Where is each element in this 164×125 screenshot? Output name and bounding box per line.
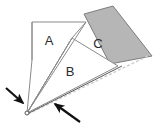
label-b: B xyxy=(66,64,75,79)
apex-vertex xyxy=(25,111,29,115)
figure-container: A B C xyxy=(0,0,164,125)
label-c: C xyxy=(93,36,102,51)
label-a: A xyxy=(45,33,54,48)
geometry-diagram: A B C xyxy=(0,0,164,125)
